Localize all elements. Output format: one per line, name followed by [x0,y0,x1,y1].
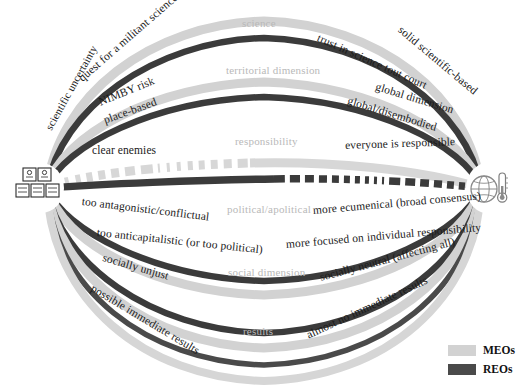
center-label-responsibility: responsibility [235,135,298,147]
legend-item-reos: REOs [448,360,526,379]
legend: MEOs REOs [448,341,526,379]
center-label-territorial-dimension: territorial dimension [226,64,320,76]
center-label-political-apolitical: political/apolitical [227,203,311,215]
crowd-group-icon [16,163,64,213]
legend-label-reos: REOs [483,364,512,376]
label-clear-enemies: clear enemies [92,144,156,156]
arc-reo-responsibility [47,179,481,188]
globe-thermometer-icon [466,162,514,214]
center-label-science: science [242,17,276,29]
center-label-results: results [243,325,273,337]
legend-item-meos: MEOs [448,341,526,360]
legend-label-meos: MEOs [483,345,515,357]
legend-swatch-meos [448,345,476,356]
arc-comparison-diagram: scientific uncertainty quest for a milit… [0,0,528,392]
legend-swatch-reos [448,364,476,375]
center-label-social-dimension: social dimension [228,266,305,278]
